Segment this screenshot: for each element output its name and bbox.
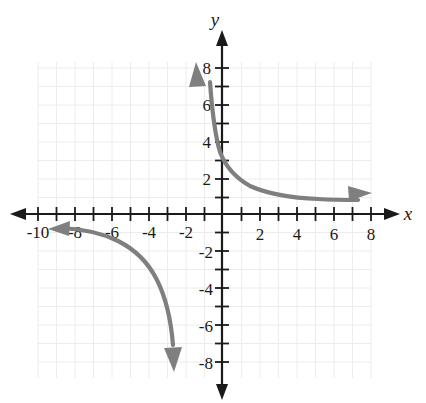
x-tick-label--10: -10 (27, 223, 50, 242)
x-tick-label--4: -4 (142, 223, 157, 242)
curve-arrowhead-down (164, 347, 182, 372)
curve-right-branch (189, 62, 372, 201)
y-tick-label--2: -2 (199, 243, 213, 262)
x-tick-label-6: 6 (330, 225, 339, 244)
y-tick-label-2: 2 (203, 170, 212, 189)
x-tick-label-8: 8 (367, 225, 376, 244)
y-tick-label-8: 8 (203, 59, 212, 78)
x-tick-label--8: -8 (68, 223, 82, 242)
curve-arrowhead-right (348, 186, 372, 201)
graph-figure: -10 -8 -6 -4 -2 2 4 6 8 8 6 4 2 -2 -4 -6… (0, 0, 426, 403)
curve-left-branch (48, 221, 182, 372)
y-tick-label-4: 4 (203, 133, 212, 152)
curve-arrowhead-left (48, 221, 70, 236)
coordinate-plane: -10 -8 -6 -4 -2 2 4 6 8 8 6 4 2 -2 -4 -6… (0, 0, 426, 403)
x-tick-label-2: 2 (256, 225, 265, 244)
y-axis-label: y (209, 9, 220, 30)
y-tick-label--8: -8 (199, 354, 213, 373)
x-tick-label-4: 4 (293, 225, 302, 244)
x-axis-label: x (403, 203, 413, 224)
x-tick-label--2: -2 (179, 223, 193, 242)
y-tick-label--4: -4 (199, 280, 214, 299)
y-tick-label--6: -6 (199, 317, 213, 336)
